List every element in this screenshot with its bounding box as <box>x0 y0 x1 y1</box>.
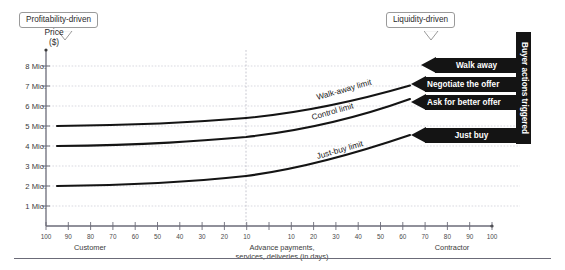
action-arrow-ask-for-better-offer: Ask for better offer <box>411 95 521 110</box>
x-tick-label: 60 <box>132 233 139 240</box>
x-tick-label: 10 <box>243 233 250 240</box>
action-arrow-walk-away: Walk away <box>421 58 521 73</box>
arrow-head-icon <box>421 57 436 73</box>
arrow-head-icon <box>411 127 426 143</box>
x-tick-label: 10 <box>288 233 295 240</box>
action-arrow-label: Ask for better offer <box>427 95 516 110</box>
action-arrow-label: Negotiate the offer <box>427 77 516 92</box>
arrow-head-icon <box>411 94 426 110</box>
action-arrow-label: Walk away <box>437 58 516 73</box>
x-tick-label: 20 <box>221 233 228 240</box>
x-tick-label: 60 <box>399 233 406 240</box>
x-tick-label: 40 <box>355 233 362 240</box>
x-tick-label: 40 <box>176 233 183 240</box>
chart-figure: Profitability-driven Liquidity-driven Pr… <box>0 0 565 270</box>
arrow-head-icon <box>411 76 426 92</box>
action-arrow-label: Just buy <box>427 128 516 143</box>
bottom-divider <box>14 258 551 259</box>
action-arrow-just-buy: Just buy <box>411 128 521 143</box>
action-arrow-negotiate-the-offer: Negotiate the offer <box>411 77 521 92</box>
x-caption-contractor: Contractor <box>435 243 470 252</box>
x-caption-line1: Advance payments, <box>236 243 329 252</box>
x-tick-label: 70 <box>109 233 116 240</box>
x-tick-label: 100 <box>487 233 498 240</box>
x-tick-label: 100 <box>41 233 52 240</box>
x-tick-label: 20 <box>310 233 317 240</box>
buyer-actions-banner-label: Buyer actions triggered <box>519 42 528 134</box>
x-tick-label: 80 <box>444 233 451 240</box>
x-tick-label: 90 <box>466 233 473 240</box>
x-caption-customer: Customer <box>74 243 106 252</box>
x-tick-label: 70 <box>422 233 429 240</box>
x-tick-label: 30 <box>332 233 339 240</box>
x-tick-label: 90 <box>65 233 72 240</box>
buyer-actions-banner: Buyer actions triggered <box>516 32 531 144</box>
x-tick-label: 30 <box>199 233 206 240</box>
x-tick-label: 50 <box>154 233 161 240</box>
x-tick-label: 50 <box>377 233 384 240</box>
x-caption-line2: services, deliveries (in days) <box>236 252 329 261</box>
x-tick-label: 80 <box>87 233 94 240</box>
